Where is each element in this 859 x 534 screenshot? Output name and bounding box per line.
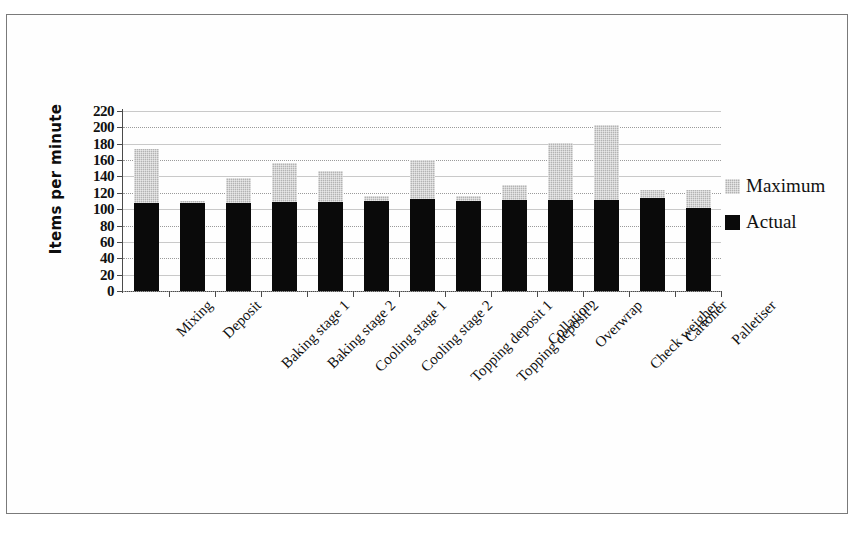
y-axis-tick — [117, 176, 123, 177]
x-axis-tick-label: Deposit — [220, 297, 265, 342]
bar — [134, 149, 159, 291]
bar-segment-actual — [410, 199, 435, 291]
y-axis-tick-label: 0 — [107, 283, 114, 300]
bar — [180, 201, 205, 291]
y-axis-tick — [117, 160, 123, 161]
bar — [364, 196, 389, 291]
bar — [594, 125, 619, 291]
bar-segment-actual — [548, 200, 573, 291]
y-axis-tick-label: 80 — [100, 217, 114, 234]
bar — [686, 190, 711, 291]
bar-segment-actual — [364, 201, 389, 291]
plot-area: 020406080100120140160180200220 — [123, 111, 721, 291]
y-axis-tick-label: 180 — [93, 135, 114, 152]
bar-segment-actual — [180, 203, 205, 291]
bar-segment-actual — [226, 203, 251, 291]
y-axis-tick — [117, 127, 123, 128]
y-axis-line — [122, 109, 123, 293]
gridline — [123, 127, 721, 129]
bar — [502, 185, 527, 291]
bar-chart: Items per minute 02040608010012014016018… — [7, 15, 849, 515]
y-axis-tick-label: 140 — [93, 168, 114, 185]
bar-segment-actual — [502, 200, 527, 291]
y-axis-tick — [117, 242, 123, 243]
y-axis-tick — [117, 111, 123, 112]
y-axis-tick-label: 60 — [100, 233, 114, 250]
x-axis-tick-label: Overwrap — [592, 297, 646, 351]
y-axis-tick — [117, 275, 123, 276]
bar-segment-maximum — [594, 125, 619, 200]
y-axis-tick-label: 120 — [93, 184, 114, 201]
bar-segment-actual — [686, 208, 711, 291]
y-axis-title: Items per minute — [42, 84, 70, 274]
bar — [318, 171, 343, 291]
chart-legend: MaximumActual — [725, 175, 849, 247]
bar-segment-maximum — [318, 171, 343, 202]
bar-segment-maximum — [272, 163, 297, 202]
y-axis-tick-label: 40 — [100, 250, 114, 267]
bar-segment-actual — [640, 198, 665, 291]
y-axis-tick-label: 160 — [93, 152, 114, 169]
bar — [640, 190, 665, 291]
legend-swatch-max — [725, 179, 740, 194]
y-axis-tick-label: 200 — [93, 119, 114, 136]
bar-segment-actual — [318, 202, 343, 291]
x-axis-tick-label: Palletiser — [728, 297, 779, 348]
legend-item: Maximum — [725, 175, 849, 197]
y-axis-tick-label: 100 — [93, 201, 114, 218]
y-axis-tick — [117, 144, 123, 145]
bar-segment-actual — [134, 203, 159, 291]
bar — [548, 143, 573, 291]
y-axis-tick — [117, 209, 123, 210]
legend-label: Maximum — [746, 175, 825, 197]
legend-label: Actual — [746, 211, 797, 233]
bar-segment-maximum — [640, 190, 665, 198]
bar-segment-maximum — [226, 178, 251, 203]
y-axis-tick — [117, 258, 123, 259]
bar-segment-actual — [456, 201, 481, 291]
y-axis-tick — [117, 193, 123, 194]
bar-segment-actual — [272, 202, 297, 291]
legend-item: Actual — [725, 211, 849, 233]
bar-segment-maximum — [548, 143, 573, 200]
gridline — [123, 111, 721, 112]
x-axis-tick-label: Mixing — [173, 297, 216, 340]
chart-frame: Items per minute 02040608010012014016018… — [6, 14, 848, 514]
bar — [226, 178, 251, 291]
x-axis-tick-labels: MixingDepositBaking stage 1Baking stage … — [123, 297, 743, 407]
bar — [456, 196, 481, 291]
y-axis-tick-label: 220 — [93, 103, 114, 120]
y-axis-tick — [117, 226, 123, 227]
gridline — [123, 291, 721, 293]
bar-segment-maximum — [410, 160, 435, 199]
y-axis-tick-label: 20 — [100, 266, 114, 283]
bar — [410, 160, 435, 291]
gridline — [123, 144, 721, 145]
bar — [272, 163, 297, 291]
bar-segment-actual — [594, 200, 619, 291]
legend-swatch-actual — [725, 215, 740, 230]
bar-segment-maximum — [502, 185, 527, 200]
bar-segment-maximum — [134, 149, 159, 202]
bar-segment-maximum — [686, 190, 711, 208]
y-axis-tick — [117, 291, 123, 292]
